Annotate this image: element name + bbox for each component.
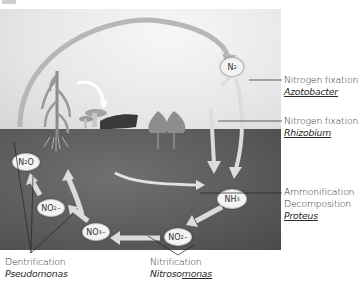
annotation-denitrification: Dentrification Pseudomonas	[5, 256, 68, 280]
leader-lines	[0, 0, 360, 283]
denitrification-leader-1	[14, 142, 31, 253]
denitrification-leader-3	[31, 214, 73, 253]
annotation-rhizobium: Nitrogen fixation Rhizobium	[284, 115, 358, 139]
nitrification-leader-2	[178, 245, 194, 255]
denitrification-leader-2	[31, 176, 33, 253]
nitrification-leader-1	[148, 236, 178, 255]
annotation-nitrification: Nitrification Nitrosomonas	[150, 256, 212, 280]
annotation-azotobacter: Nitrogen fixation Azotobacter	[284, 74, 358, 98]
annotation-ammonification: Ammonification Decomposition Proteus	[284, 186, 354, 222]
